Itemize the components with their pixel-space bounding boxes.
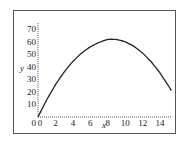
x-tick-label: 4 bbox=[71, 118, 76, 128]
y-tick-label: 70 bbox=[27, 24, 37, 34]
y-tick-label: 20 bbox=[27, 87, 37, 97]
data-curve bbox=[38, 39, 171, 117]
x-tick-label: 14 bbox=[156, 118, 166, 128]
x-tick-label: 12 bbox=[138, 118, 147, 128]
y-axis: 010203040506070 bbox=[27, 23, 38, 128]
x-tick-label: 2 bbox=[53, 118, 58, 128]
line-chart: 010203040506070 02468101214 x y bbox=[0, 0, 195, 144]
x-axis-label: x bbox=[101, 120, 106, 130]
y-tick-label: 60 bbox=[27, 37, 37, 47]
y-tick-label: 0 bbox=[32, 118, 37, 128]
y-tick-label: 10 bbox=[27, 99, 37, 109]
y-tick-label: 50 bbox=[27, 49, 37, 59]
y-axis-label: y bbox=[19, 63, 24, 73]
y-tick-label: 30 bbox=[27, 74, 37, 84]
y-tick-label: 40 bbox=[27, 62, 37, 72]
x-tick-label: 10 bbox=[121, 118, 131, 128]
x-tick-label: 8 bbox=[106, 118, 111, 128]
x-tick-label: 6 bbox=[88, 118, 93, 128]
x-tick-label: 0 bbox=[38, 118, 43, 128]
